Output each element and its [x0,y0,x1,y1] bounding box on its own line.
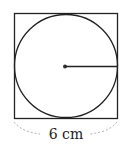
circle-in-square-diagram: 6 cm [0,0,125,148]
side-length-label: 6 cm [49,126,83,142]
dimension-brace-right [90,122,117,134]
dimension-brace-left [14,122,40,134]
